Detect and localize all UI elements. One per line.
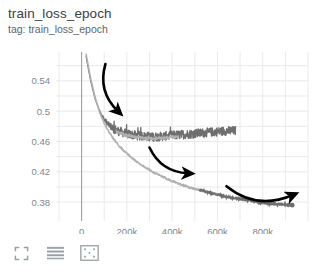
svg-text:0.5: 0.5 xyxy=(37,106,50,117)
svg-text:0: 0 xyxy=(79,226,84,234)
svg-text:800k: 800k xyxy=(252,226,273,234)
svg-text:600k: 600k xyxy=(207,226,228,234)
fullscreen-icon[interactable] xyxy=(10,243,32,263)
series-lines xyxy=(86,54,294,207)
x-axis-tick-labels: 0200k400k600k800k xyxy=(79,226,273,234)
y-axis-tick-labels: 0.540.50.460.420.38 xyxy=(32,75,51,207)
svg-text:0.54: 0.54 xyxy=(32,75,51,86)
svg-text:0.38: 0.38 xyxy=(32,197,51,208)
lines-icon[interactable] xyxy=(44,243,66,263)
chart-plot-area[interactable]: 0.540.50.460.420.38 0200k400k600k800k xyxy=(0,44,320,234)
svg-text:0.46: 0.46 xyxy=(32,136,51,147)
chart-tag-label: tag: train_loss_epoch xyxy=(8,23,108,36)
chart-svg[interactable]: 0.540.50.460.420.38 0200k400k600k800k xyxy=(0,44,320,234)
chart-toolbar[interactable] xyxy=(10,243,100,263)
fit-domain-icon[interactable] xyxy=(78,243,100,263)
scalar-chart-panel: train_loss_epoch tag: train_loss_epoch 0… xyxy=(0,0,320,278)
svg-text:400k: 400k xyxy=(162,226,183,234)
svg-text:200k: 200k xyxy=(117,226,138,234)
page-title: train_loss_epoch xyxy=(8,6,112,22)
svg-text:0.42: 0.42 xyxy=(32,166,51,177)
